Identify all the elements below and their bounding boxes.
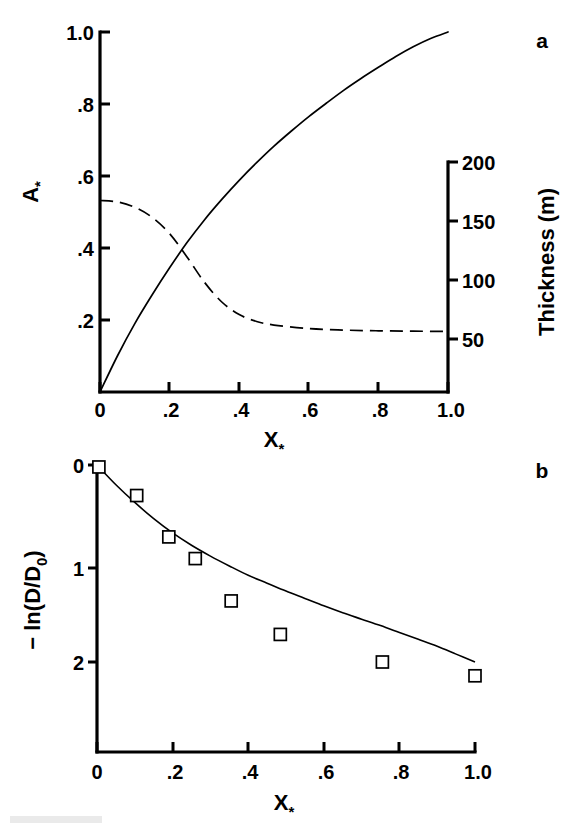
- panel-a-left-tick-3: .6: [77, 166, 94, 188]
- panel-b-x-tick-3: .6: [318, 761, 335, 783]
- panel-a-x-tick-3: .6: [302, 399, 319, 421]
- panel-b-x-tick-1: .2: [167, 761, 184, 783]
- panel-b-data-point: [93, 461, 105, 473]
- panel-b-y-tick-0: 0: [73, 455, 84, 477]
- panel-a-series-thickness-curve: [100, 200, 448, 331]
- panel-a-left-axis-title-subscript: *: [31, 181, 48, 187]
- panel-a-left-axis-title-text: A: [18, 187, 43, 203]
- panel-b-x-tick-4: .8: [393, 761, 410, 783]
- panel-b-x-axis-title: X*: [274, 790, 295, 820]
- panel-a-left-axis-title: A*: [18, 181, 48, 203]
- panel-a-right-axis-title: Thickness (m): [534, 188, 559, 336]
- panel-a-right-tick-200: 200: [462, 152, 495, 174]
- panel-b-y-axis-title-subscript: 0: [33, 558, 50, 566]
- panel-a-left-tick-1: 1.0: [66, 22, 94, 44]
- panel-b-data-point: [163, 531, 175, 543]
- panel-b-x-tick-0: 0: [91, 761, 102, 783]
- panel-a-right-tick-150: 150: [462, 211, 495, 233]
- panel-b-y-axis-title-text: − ln(D/D: [20, 566, 45, 650]
- panel-a-x-tick-5: 1.0: [437, 399, 465, 421]
- panel-a-right-tick-100: 100: [462, 270, 495, 292]
- panel-b-x-tick-5: 1.0: [464, 761, 492, 783]
- panel-a-x-axis-title-subscript: *: [278, 440, 284, 457]
- panel-a-x-tick-4: .8: [372, 399, 389, 421]
- panel-a-right-axis-title-text: Thickness (m): [534, 188, 559, 336]
- panel-b-y-axis-title-suffix: ): [20, 550, 45, 557]
- panel-a-x-tick-1: .2: [163, 399, 180, 421]
- panel-b-y-axis-title: − ln(D/D0): [20, 550, 50, 649]
- figure-svg: a 1.0 .8 .6 .4 .2 A*: [0, 0, 587, 831]
- panel-a-left-tick-5: .2: [77, 310, 94, 332]
- svg-text:A*: A*: [18, 181, 48, 203]
- panel-a-left-tick-4: .4: [77, 238, 95, 260]
- panel-b-y-tick-1: 1: [73, 558, 84, 580]
- panel-a-x-tick-2: .4: [233, 399, 251, 421]
- panel-b-data-point: [469, 670, 481, 682]
- panel-b-data-point: [225, 595, 237, 607]
- panel-b-data-point: [376, 656, 388, 668]
- panel-b-x-tick-2: .4: [242, 761, 260, 783]
- panel-a-label: a: [536, 29, 548, 52]
- panel-a-x-tick-0: 0: [94, 399, 105, 421]
- panel-a-x-axis-title: X*: [264, 427, 285, 457]
- panel-a-left-tick-2: .8: [77, 94, 94, 116]
- panel-b-data-point: [189, 553, 201, 565]
- panel-b-label: b: [536, 459, 549, 482]
- panel-a-x-axis-title-text: X: [264, 427, 279, 452]
- figure-container: a 1.0 .8 .6 .4 .2 A*: [0, 0, 587, 831]
- panel-a-right-tick-50: 50: [462, 329, 484, 351]
- panel-b-x-axis-title-subscript: *: [288, 803, 294, 820]
- panel-a-series-a-star-curve: [100, 32, 448, 392]
- panel-b-x-axis-title-text: X: [274, 790, 289, 815]
- panel-b-data-point: [274, 628, 286, 640]
- panel-b-data-point: [131, 490, 143, 502]
- panel-b-y-tick-2: 2: [73, 652, 84, 674]
- panel-b: b 0 1 2 − ln(D/D0): [20, 455, 548, 820]
- panel-a: a 1.0 .8 .6 .4 .2 A*: [18, 22, 559, 457]
- scan-artifact: [10, 816, 102, 823]
- panel-b-data-markers: [93, 461, 481, 682]
- svg-text:− ln(D/D0): − ln(D/D0): [20, 550, 50, 649]
